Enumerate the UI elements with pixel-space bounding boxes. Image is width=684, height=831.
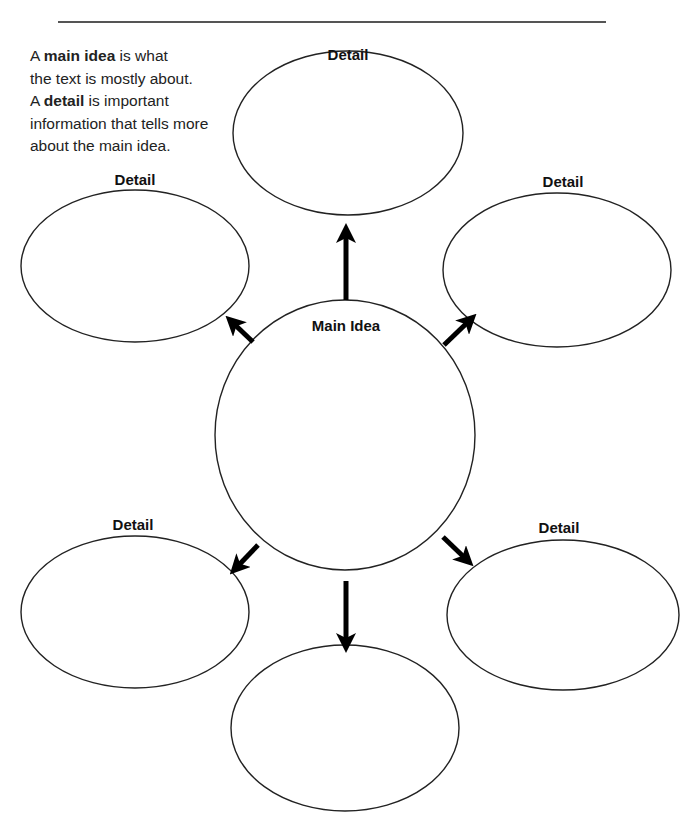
detail-label-lower-right: Detail xyxy=(539,519,580,536)
arrow-lower-left-icon xyxy=(236,545,258,568)
arrow-upper-left-icon xyxy=(232,322,253,342)
detail-oval-top[interactable] xyxy=(233,51,463,215)
detail-label-upper-right: Detail xyxy=(543,173,584,190)
main-idea-label: Main Idea xyxy=(312,317,380,334)
detail-label-upper-left: Detail xyxy=(115,171,156,188)
web-diagram xyxy=(0,0,684,831)
detail-label-lower-left: Detail xyxy=(113,516,154,533)
detail-oval-lower-left[interactable] xyxy=(21,536,249,688)
detail-oval-lower-right[interactable] xyxy=(447,540,679,690)
detail-oval-upper-right[interactable] xyxy=(443,193,671,347)
detail-oval-upper-left[interactable] xyxy=(21,190,249,342)
detail-oval-bottom[interactable] xyxy=(231,645,459,811)
arrow-lower-right-icon xyxy=(443,537,467,560)
detail-label-top: Detail xyxy=(328,46,369,63)
arrow-upper-right-icon xyxy=(444,320,470,345)
